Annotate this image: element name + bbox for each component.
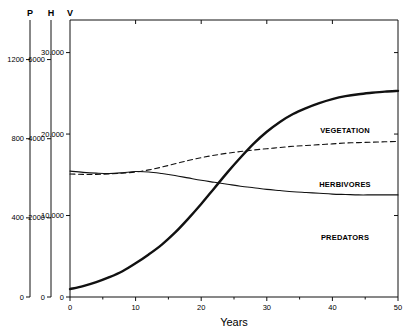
tick-label: 0 xyxy=(68,303,72,312)
tick-label: 20.000 xyxy=(41,130,64,139)
herbivores-axis-label: H xyxy=(48,8,55,18)
series-line-predators xyxy=(70,91,398,289)
tick-label: 800 xyxy=(11,134,24,143)
series-paths xyxy=(70,91,398,289)
tick-label: 0 xyxy=(41,293,45,302)
x-axis-ticks: 01020304050 xyxy=(68,297,402,312)
tick-label: 1200 xyxy=(7,55,24,64)
tick-label: 30.000 xyxy=(41,48,64,57)
series-label-vegetation: VEGETATION xyxy=(320,126,370,135)
population-dynamics-chart: 04008001200 P 0200040006000 H V 010.0002… xyxy=(0,0,419,333)
x-axis-top-ticks xyxy=(136,20,333,24)
series-labels: VEGETATIONHERBIVORESPREDATORS xyxy=(319,126,371,242)
x-axis-title: Years xyxy=(220,316,248,328)
plot-box xyxy=(70,20,398,297)
vegetation-axis-right-ticks xyxy=(394,53,398,216)
series-line-vegetation xyxy=(70,141,398,174)
tick-label: 10 xyxy=(131,303,139,312)
series-label-predators: PREDATORS xyxy=(321,233,369,242)
tick-label: 20 xyxy=(197,303,205,312)
tick-label: 30 xyxy=(263,303,271,312)
tick-label: 50 xyxy=(394,303,402,312)
plot-frame: V 010.00020.00030.000 01020304050 xyxy=(41,8,402,312)
tick-label: 10.000 xyxy=(41,211,64,220)
predators-axis: 04008001200 P xyxy=(7,8,33,302)
tick-label: 400 xyxy=(11,213,24,222)
tick-label: 40 xyxy=(328,303,336,312)
vegetation-axis-label: V xyxy=(67,8,73,18)
predators-axis-label: P xyxy=(27,8,33,18)
tick-label: 0 xyxy=(20,293,24,302)
predators-axis-ticks: 04008001200 xyxy=(7,55,30,301)
herbivores-axis-ticks: 0200040006000 xyxy=(28,55,51,301)
series-label-herbivores: HERBIVORES xyxy=(319,180,371,189)
vegetation-axis-ticks: 010.00020.00030.000 xyxy=(41,48,70,301)
tick-label: 0 xyxy=(60,293,64,302)
figure-container: 04008001200 P 0200040006000 H V 010.0002… xyxy=(0,0,419,333)
